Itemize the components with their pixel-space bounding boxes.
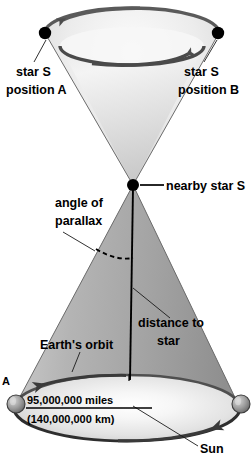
star-dot-position-a [39,27,51,39]
earth-sphere-a [7,395,25,413]
label-sun: Sun [200,442,224,456]
parallax-diagram-canvas: star S position A star S position B near… [0,0,251,465]
label-star-s-position-a-line2: position A [6,83,67,97]
label-star-s-position-b-line1: star S [184,65,219,79]
label-distance-to-star-line2: star [157,334,180,348]
label-distance-to-star-line1: distance to [138,316,204,330]
label-earths-orbit: Earth's orbit [40,338,114,352]
label-nearby-star-s: nearby star S [166,179,245,193]
star-dot-position-b [212,27,224,39]
earth-sphere-b [232,395,250,413]
earth-position-a [7,395,25,413]
label-star-s-position-a-line1: star S [16,65,51,79]
earth-position-b [232,395,250,413]
parallax-diagram: star S position A star S position B near… [0,0,251,465]
earth-a-highlight [10,397,16,405]
label-point-a-marker: A [2,375,10,387]
label-baseline-km: (140,000,000 km) [27,413,115,425]
earth-b-highlight [235,397,241,405]
label-angle-of-parallax-line1: angle of [55,196,104,210]
label-angle-of-parallax-line2: parallax [55,214,102,228]
label-star-s-position-b-line2: position B [178,83,239,97]
label-baseline-miles: 95,000,000 miles [27,394,113,406]
